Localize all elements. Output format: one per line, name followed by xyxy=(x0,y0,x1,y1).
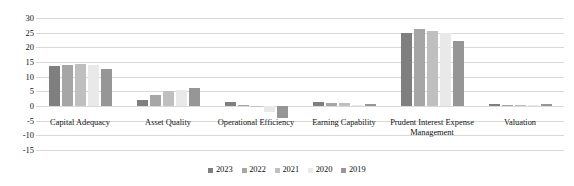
bar xyxy=(62,65,73,106)
bar xyxy=(414,29,425,106)
legend-swatch-icon xyxy=(208,168,213,173)
bar xyxy=(101,69,112,106)
legend-swatch-icon xyxy=(275,168,280,173)
legend-swatch-icon xyxy=(308,168,313,173)
y-axis-tick-label: -10 xyxy=(4,131,34,140)
legend-item-2022[interactable]: 2022 xyxy=(242,166,266,174)
bar xyxy=(453,41,464,106)
bar xyxy=(75,64,86,106)
bar xyxy=(189,88,200,106)
y-axis-tick-label: -15 xyxy=(4,146,34,155)
y-axis: 302520151050-5-10-15 xyxy=(0,18,34,150)
bar xyxy=(225,102,236,106)
bar xyxy=(176,90,187,106)
bar xyxy=(264,106,275,112)
bar xyxy=(326,103,337,106)
bar xyxy=(238,105,249,106)
bar xyxy=(541,104,552,106)
bar xyxy=(150,95,161,106)
bar xyxy=(88,65,99,106)
y-axis-tick-label: 5 xyxy=(4,87,34,96)
bar xyxy=(515,105,526,106)
bar xyxy=(352,105,363,106)
y-axis-tick-label: 0 xyxy=(4,102,34,111)
bar xyxy=(339,103,350,106)
y-axis-tick-label: -5 xyxy=(4,117,34,126)
legend-label: 2022 xyxy=(249,166,266,174)
bar xyxy=(49,66,60,106)
legend-swatch-icon xyxy=(341,168,346,173)
category-axis: Capital AdequacyAsset QualityOperational… xyxy=(36,118,564,137)
legend-item-2023[interactable]: 2023 xyxy=(208,166,232,174)
y-axis-tick-label: 30 xyxy=(4,14,34,23)
bar xyxy=(137,100,148,106)
y-axis-tick-label: 10 xyxy=(4,73,34,82)
category-label: Prudent Interest Expense Management xyxy=(388,118,476,137)
category-label: Capital Adequacy xyxy=(36,118,124,137)
bar xyxy=(163,91,174,106)
y-axis-tick-label: 15 xyxy=(4,58,34,67)
legend-label: 2021 xyxy=(282,166,299,174)
category-label: Valuation xyxy=(476,118,564,137)
legend-item-2021[interactable]: 2021 xyxy=(275,166,299,174)
legend-label: 2020 xyxy=(316,166,333,174)
bar xyxy=(401,33,412,106)
bar xyxy=(313,102,324,106)
y-axis-tick-label: 25 xyxy=(4,29,34,38)
legend-label: 2023 xyxy=(216,166,233,174)
chart-legend: 20232022202120202019 xyxy=(0,166,574,174)
bar xyxy=(528,105,539,106)
bar xyxy=(427,31,438,106)
legend-label: 2019 xyxy=(349,166,366,174)
grid-line xyxy=(36,150,564,151)
bar xyxy=(440,33,451,106)
bar xyxy=(489,104,500,106)
category-label: Operational Efficiency xyxy=(212,118,300,137)
category-label: Asset Quality xyxy=(124,118,212,137)
bar xyxy=(502,105,513,106)
bar-chart: 302520151050-5-10-15 Capital AdequacyAss… xyxy=(0,0,574,186)
bar xyxy=(277,106,288,118)
y-axis-tick-label: 20 xyxy=(4,43,34,52)
legend-swatch-icon xyxy=(242,168,247,173)
legend-item-2019[interactable]: 2019 xyxy=(341,166,365,174)
bar xyxy=(251,106,262,107)
bar xyxy=(365,104,376,106)
legend-item-2020[interactable]: 2020 xyxy=(308,166,332,174)
category-label: Earning Capability xyxy=(300,118,388,137)
